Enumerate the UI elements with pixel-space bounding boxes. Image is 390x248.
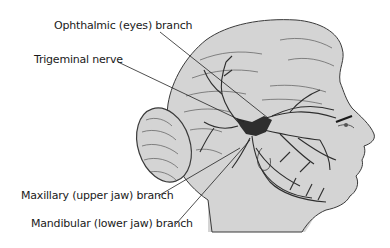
label-ophthalmic-branch: Ophthalmic (eyes) branch — [54, 20, 192, 31]
label-trigeminal-nerve: Trigeminal nerve — [34, 54, 123, 65]
head-shape — [167, 20, 375, 232]
label-maxillary-branch: Maxillary (upper jaw) branch — [21, 190, 173, 201]
trigeminal-nerve-diagram: Ophthalmic (eyes) branch Trigeminal nerv… — [0, 0, 390, 248]
head-illustration — [0, 0, 390, 248]
label-mandibular-branch: Mandibular (lower jaw) branch — [31, 218, 193, 229]
